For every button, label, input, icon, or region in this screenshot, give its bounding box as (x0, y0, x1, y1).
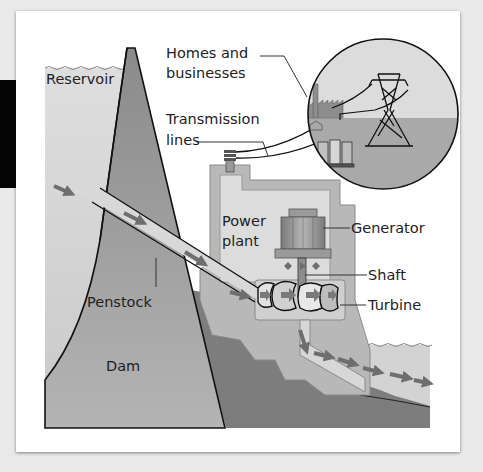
label-shaft: Shaft (368, 267, 406, 283)
label-penstock: Penstock (87, 294, 152, 310)
label-generator: Generator (351, 220, 425, 236)
label-reservoir: Reservoir (46, 71, 114, 87)
label-homes-line1: Homes and (166, 45, 248, 61)
label-transmission-line1: Transmission (165, 111, 260, 127)
label-homes-line2: businesses (166, 65, 246, 81)
label-transmission-line2: lines (166, 132, 200, 148)
label-dam: Dam (106, 358, 140, 374)
hydroelectric-diagram: Reservoir Homes and businesses Transmiss… (0, 0, 483, 472)
label-turbine: Turbine (367, 297, 421, 313)
transformer-icon (316, 140, 354, 167)
inset-circle (292, 30, 470, 198)
label-power: Power (222, 213, 266, 229)
insulator (224, 150, 236, 172)
label-plant: plant (222, 233, 259, 249)
